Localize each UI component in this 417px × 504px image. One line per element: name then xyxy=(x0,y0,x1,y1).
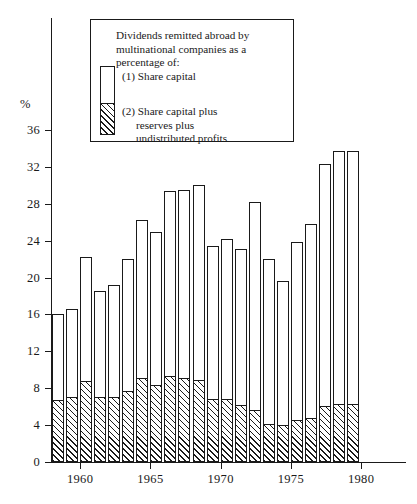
bar-share-capital-plus-reserves xyxy=(319,406,331,462)
bar-share-capital-plus-reserves xyxy=(221,399,233,462)
legend-title-line-1: Dividends remitted abroad by xyxy=(116,29,249,41)
bar-share-capital-plus-reserves xyxy=(193,380,205,462)
bar-share-capital-plus-reserves xyxy=(333,404,345,462)
bar-share-capital-plus-reserves xyxy=(94,397,106,462)
bar-share-capital-plus-reserves xyxy=(122,391,134,462)
legend-swatch-hatched xyxy=(100,103,115,135)
bar-share-capital-plus-reserves xyxy=(150,385,162,462)
legend-item-1-label: (1) Share capital xyxy=(122,70,282,84)
legend-title-line-3: percentage of: xyxy=(116,56,180,68)
bar-share-capital-plus-reserves xyxy=(66,397,78,462)
legend-item-2-line-1: (2) Share capital plus xyxy=(122,105,217,117)
bar-share-capital-plus-reserves xyxy=(277,425,289,462)
bar-share-capital-plus-reserves xyxy=(178,378,190,462)
bar-share-capital-plus-reserves xyxy=(164,376,176,462)
legend-title: Dividends remitted abroad by multination… xyxy=(116,29,286,70)
legend-item-2-line-3: undistributed profits xyxy=(122,132,287,146)
bar-chart: % 04812162024283236 19601965197019751980… xyxy=(0,0,417,504)
bar-share-capital-plus-reserves xyxy=(291,420,303,462)
bar-share-capital-plus-reserves xyxy=(108,397,120,462)
legend-item-2-label: (2) Share capital plus reserves plus und… xyxy=(122,105,287,146)
bar-share-capital-plus-reserves xyxy=(52,400,64,462)
bar-share-capital-plus-reserves xyxy=(263,424,275,462)
legend-item-2-line-2: reserves plus xyxy=(122,119,287,133)
bar-share-capital-plus-reserves xyxy=(80,381,92,462)
bar-share-capital-plus-reserves xyxy=(136,378,148,462)
bar-share-capital-plus-reserves xyxy=(207,399,219,462)
bar-share-capital-plus-reserves xyxy=(235,405,247,462)
bar-share-capital-plus-reserves xyxy=(347,404,359,462)
legend-title-line-2: multinational companies as a xyxy=(116,43,246,55)
legend: Dividends remitted abroad by multination… xyxy=(90,19,294,142)
bar-share-capital-plus-reserves xyxy=(305,418,317,462)
bar-share-capital-plus-reserves xyxy=(249,410,261,462)
